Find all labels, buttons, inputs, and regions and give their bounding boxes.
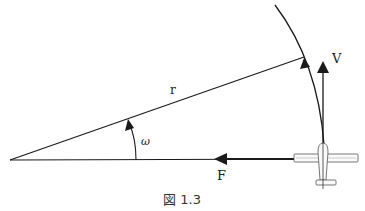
airplane-icon: [294, 143, 358, 189]
omega-label: ω: [141, 135, 150, 148]
circular-motion-diagram: r ω V F 図 1.3: [0, 0, 365, 211]
figure-caption: 図 1.3: [163, 192, 201, 207]
force-arrow-icon: [214, 153, 227, 165]
velocity-label: V: [331, 51, 342, 66]
force-label: F: [217, 168, 226, 183]
flight-path-arc: [275, 5, 324, 145]
velocity-arrow-icon: [317, 61, 329, 73]
radius-label: r: [170, 83, 176, 97]
omega-arrow-icon: [125, 119, 134, 131]
radius-line: [10, 57, 304, 160]
